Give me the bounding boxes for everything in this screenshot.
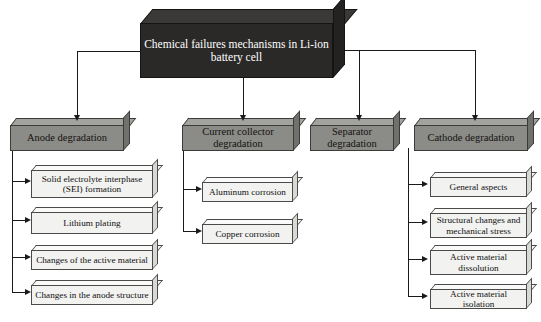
node-separator-degradation-side-face: [393, 110, 400, 151]
connector-root-right-horizontal: [341, 50, 476, 51]
node-anode-degradation-front-face: Anode degradation: [10, 125, 124, 151]
node-root[interactable]: Chemical failures mechanisms in Li-ion b…: [140, 9, 345, 78]
arrowhead-cathode: [472, 115, 478, 121]
node-changes-active-material-front-face: Changes of the active material: [31, 250, 153, 270]
node-aluminum-corrosion[interactable]: Aluminum corrosion: [202, 177, 298, 202]
node-active-material-isolation[interactable]: Active material isolation: [430, 284, 532, 309]
arrowhead-anode: [74, 115, 80, 121]
node-lithium-plating-label: Lithium plating: [60, 218, 123, 228]
arrowhead-cathode-child-3: [422, 256, 428, 262]
node-root-side-face: [333, 0, 345, 78]
node-active-material-isolation-label: Active material isolation: [431, 289, 526, 310]
connector-root-to-current-collector: [243, 78, 244, 117]
node-general-aspects-front-face: General aspects: [430, 177, 527, 197]
node-sei-formation[interactable]: Solid electrolyte interphase (SEI) forma…: [31, 165, 158, 198]
node-copper-corrosion[interactable]: Copper corrosion: [202, 219, 298, 244]
node-cathode-degradation-side-face: [527, 110, 534, 151]
node-current-collector-degradation-label: Current collector degradation: [183, 126, 293, 150]
node-root-front-face: Chemical failures mechanisms in Li-ion b…: [140, 23, 333, 78]
node-structural-changes[interactable]: Structural changes and mechanical stress: [430, 208, 532, 238]
connector-root-to-anode-horizontal: [77, 51, 140, 52]
node-lithium-plating-front-face: Lithium plating: [31, 212, 153, 234]
node-changes-active-material-label: Changes of the active material: [33, 255, 151, 265]
arrowhead-current-collector: [240, 115, 246, 121]
node-cathode-degradation[interactable]: Cathode degradation: [414, 118, 534, 151]
node-root-top-face: [140, 9, 358, 24]
node-changes-active-material[interactable]: Changes of the active material: [31, 245, 158, 270]
node-cathode-degradation-front-face: Cathode degradation: [414, 125, 528, 151]
arrowhead-anode-child-3: [25, 254, 31, 260]
arrowhead-cathode-child-1: [422, 181, 428, 187]
arrowhead-cathode-child-2: [422, 219, 428, 225]
arrowhead-cathode-child-4: [422, 293, 428, 299]
node-separator-degradation[interactable]: Separator degradation: [310, 118, 400, 151]
node-active-material-dissolution-label: Active material dissolution: [431, 252, 526, 273]
node-current-collector-degradation-side-face: [293, 110, 300, 151]
node-changes-anode-structure-front-face: Changes in the anode structure: [31, 285, 153, 305]
node-general-aspects[interactable]: General aspects: [430, 172, 532, 197]
connector-root-to-cathode: [475, 50, 476, 117]
node-root-label: Chemical failures mechanisms in Li-ion b…: [141, 38, 332, 64]
node-active-material-dissolution-front-face: Active material dissolution: [430, 250, 527, 275]
node-anode-degradation-side-face: [123, 110, 130, 151]
arrowhead-current-collector-child-1: [196, 186, 202, 192]
connector-root-to-anode-vertical: [77, 51, 78, 117]
node-structural-changes-front-face: Structural changes and mechanical stress: [430, 213, 527, 238]
flowchart-canvas: Chemical failures mechanisms in Li-ion b…: [0, 0, 541, 322]
node-aluminum-corrosion-front-face: Aluminum corrosion: [202, 182, 293, 202]
node-sei-formation-label: Solid electrolyte interphase (SEI) forma…: [32, 174, 152, 195]
node-active-material-isolation-front-face: Active material isolation: [430, 289, 527, 309]
arrowhead-anode-child-1: [25, 178, 31, 184]
node-changes-anode-structure[interactable]: Changes in the anode structure: [31, 280, 158, 305]
node-copper-corrosion-label: Copper corrosion: [212, 229, 282, 239]
node-aluminum-corrosion-label: Aluminum corrosion: [206, 187, 289, 197]
node-structural-changes-label: Structural changes and mechanical stress: [431, 215, 526, 236]
node-anode-degradation[interactable]: Anode degradation: [10, 118, 130, 151]
node-separator-degradation-front-face: Separator degradation: [310, 125, 394, 151]
node-general-aspects-label: General aspects: [447, 182, 511, 192]
node-copper-corrosion-front-face: Copper corrosion: [202, 224, 293, 244]
node-current-collector-degradation[interactable]: Current collector degradation: [182, 118, 300, 151]
arrowhead-anode-child-4: [25, 289, 31, 295]
arrowhead-separator: [356, 115, 362, 121]
node-current-collector-degradation-front-face: Current collector degradation: [182, 125, 294, 151]
node-anode-degradation-label: Anode degradation: [24, 132, 110, 144]
node-cathode-degradation-label: Cathode degradation: [424, 132, 517, 144]
node-separator-degradation-label: Separator degradation: [311, 126, 393, 150]
node-active-material-dissolution[interactable]: Active material dissolution: [430, 245, 532, 275]
node-lithium-plating[interactable]: Lithium plating: [31, 207, 158, 234]
arrowhead-anode-child-2: [25, 217, 31, 223]
node-changes-anode-structure-label: Changes in the anode structure: [32, 290, 151, 300]
node-sei-formation-front-face: Solid electrolyte interphase (SEI) forma…: [31, 170, 153, 198]
connector-root-to-separator: [359, 50, 360, 117]
arrowhead-current-collector-child-2: [196, 228, 202, 234]
